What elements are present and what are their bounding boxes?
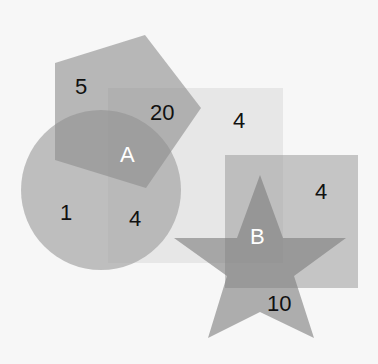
venn-diagram: 5 20 4 A 1 4 4 B 10 — [0, 0, 378, 364]
label-square-b-only: 4 — [315, 179, 327, 204]
label-intersection-b: B — [250, 224, 265, 249]
label-pentagon-only: 5 — [75, 74, 87, 99]
label-star-only: 10 — [267, 291, 291, 316]
label-circle-only: 1 — [60, 200, 72, 225]
label-intersection-a: A — [120, 142, 135, 167]
label-circle-square: 4 — [129, 206, 141, 231]
label-large-square-only: 4 — [233, 108, 245, 133]
label-pentagon-square: 20 — [150, 100, 174, 125]
